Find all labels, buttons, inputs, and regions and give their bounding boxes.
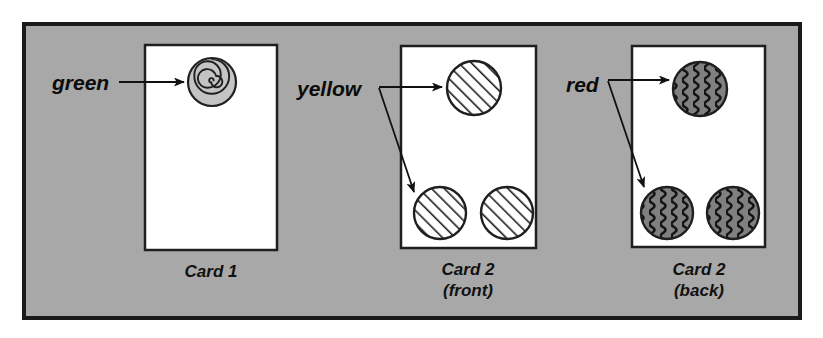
- caption-card-2-back-line-2: (back): [674, 281, 724, 300]
- label-red: red: [566, 73, 600, 96]
- card2front-circle-bottom-right: [481, 187, 533, 239]
- card2back-circle-bottom-left: [641, 187, 693, 239]
- card-2-front[interactable]: [401, 46, 536, 248]
- caption-card-2-front-line-2: (front): [443, 281, 493, 300]
- caption-card-2-front-line-1: Card 2: [442, 260, 495, 279]
- card2front-circle-top: [447, 61, 501, 115]
- caption-card-2-back-line-1: Card 2: [673, 260, 726, 279]
- card2back-circle-top: [673, 62, 727, 116]
- card-1[interactable]: [145, 45, 277, 250]
- label-yellow: yellow: [296, 77, 363, 100]
- card2front-circle-bottom-left: [414, 187, 466, 239]
- card2back-circle-bottom-right: [707, 187, 759, 239]
- caption-card-1-line-1: Card 1: [185, 262, 238, 281]
- figure-root: green yellow red Card 1 Card 2 (front) C…: [0, 0, 823, 338]
- card-color-diagram: green yellow red Card 1 Card 2 (front) C…: [0, 0, 823, 338]
- card-2-back[interactable]: [632, 46, 765, 247]
- caption-card-1: Card 1: [185, 262, 238, 281]
- label-green: green: [51, 71, 109, 94]
- card1-circle-top: [188, 58, 236, 106]
